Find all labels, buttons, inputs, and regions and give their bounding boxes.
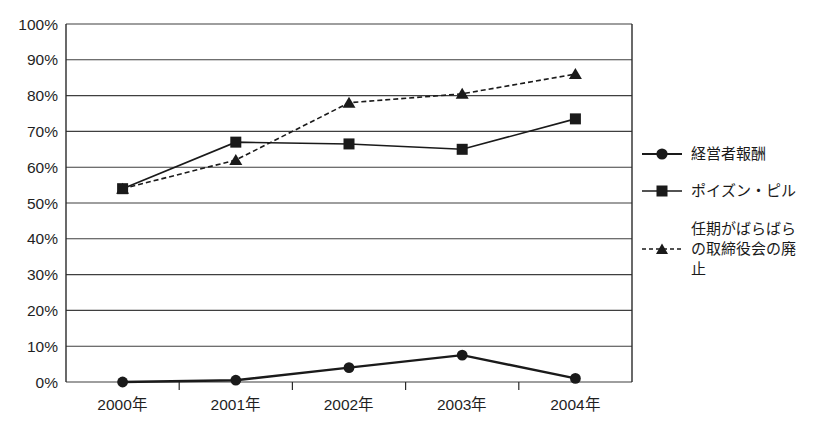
data-point-circle (570, 373, 581, 384)
data-point-square (344, 138, 355, 149)
y-axis-tick-label: 20% (27, 302, 58, 319)
series-line-square (123, 119, 576, 189)
data-point-circle (344, 362, 355, 373)
x-axis-tick-label: 2003年 (437, 396, 487, 413)
data-point-circle (117, 377, 128, 388)
y-axis-tick-label: 50% (27, 195, 58, 212)
data-point-triangle (569, 68, 582, 79)
data-point-square (117, 183, 128, 194)
data-point-circle (230, 375, 241, 386)
triangle-marker-icon (641, 242, 683, 256)
square-marker-icon (641, 184, 683, 198)
y-axis-tick-label: 90% (27, 51, 58, 68)
line-chart-figure: 0%10%20%30%40%50%60%70%80%90%100%2000年20… (0, 0, 827, 430)
circle-marker-icon (641, 147, 683, 161)
legend-item-keieisha-hoshu: 経営者報酬 (641, 144, 801, 164)
legend-item-staggered-board: 任期がばらばらの取締役会の廃止 (641, 219, 801, 280)
y-axis-tick-label: 40% (27, 230, 58, 247)
legend-label-staggered-board: 任期がばらばらの取締役会の廃止 (691, 219, 801, 280)
legend-label-poison-pill: ポイズン・ピル (691, 181, 796, 201)
y-axis-tick-label: 60% (27, 159, 58, 176)
data-point-square (570, 113, 581, 124)
legend-label-keieisha-hoshu: 経営者報酬 (691, 144, 766, 164)
y-axis-tick-label: 30% (27, 266, 58, 283)
x-axis-tick-label: 2004年 (550, 396, 600, 413)
x-axis-tick-label: 2000年 (97, 396, 147, 413)
data-point-square (457, 144, 468, 155)
data-point-triangle (229, 154, 242, 165)
y-axis-tick-label: 0% (36, 374, 59, 391)
x-axis-tick-label: 2001年 (211, 396, 261, 413)
data-point-circle (457, 350, 468, 361)
x-axis-tick-label: 2002年 (324, 396, 374, 413)
y-axis-tick-label: 10% (27, 338, 58, 355)
y-axis-tick-label: 70% (27, 123, 58, 140)
y-axis-tick-label: 80% (27, 87, 58, 104)
chart-legend: 経営者報酬 ポイズン・ピル 任期がばらばらの取締役会の廃止 (641, 144, 801, 279)
y-axis-tick-label: 100% (18, 16, 58, 33)
data-point-square (230, 137, 241, 148)
legend-item-poison-pill: ポイズン・ピル (641, 181, 801, 201)
